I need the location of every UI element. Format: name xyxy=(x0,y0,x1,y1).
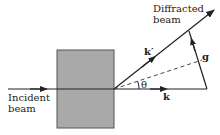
theta-arc xyxy=(138,81,139,89)
k-prime-label: k′ xyxy=(144,47,154,57)
diagram-canvas xyxy=(0,0,220,135)
diffracted-beam-label-line1: Diffracted xyxy=(153,4,204,14)
bisector-dashed-line xyxy=(114,60,202,89)
theta-label: θ xyxy=(141,80,147,90)
g-label: g xyxy=(202,52,209,62)
g-vector-arrow-icon xyxy=(192,41,195,51)
k-prime-arrow-icon xyxy=(142,58,153,67)
diffracted-beam-label-line2: beam xyxy=(153,15,181,25)
k-label: k xyxy=(163,92,170,102)
incident-beam-label-line1: Incident xyxy=(8,93,50,103)
diffraction-diagram: Incident beam Diffracted beam k′ k g θ xyxy=(0,0,220,135)
incident-beam-label-line2: beam xyxy=(8,104,36,114)
